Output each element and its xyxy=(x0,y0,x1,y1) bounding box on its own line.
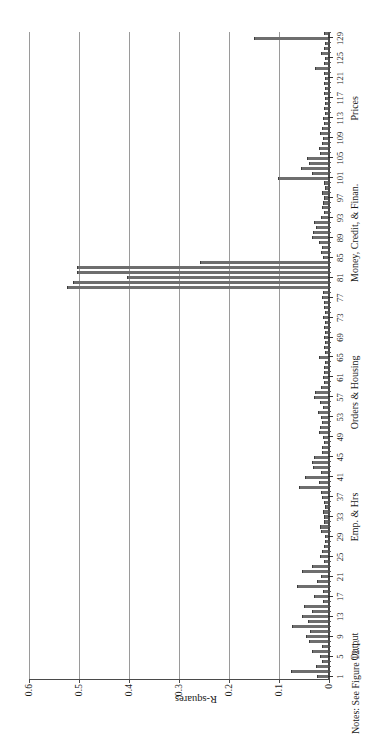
x-tick-mark xyxy=(328,401,331,402)
y-tick-mark xyxy=(79,679,80,683)
x-tick-mark xyxy=(328,211,331,212)
y-tick-mark xyxy=(129,679,130,683)
x-tick-mark xyxy=(328,501,331,502)
x-tick-label-29: 29 xyxy=(335,532,345,541)
x-tick-label-45: 45 xyxy=(335,452,345,461)
x-tick-mark xyxy=(328,660,331,661)
x-tick-mark xyxy=(328,206,331,207)
x-tick-mark xyxy=(328,451,331,452)
x-tick-mark xyxy=(328,102,331,103)
x-tick-mark xyxy=(328,197,333,198)
x-tick-mark xyxy=(328,471,331,472)
x-tick-mark xyxy=(328,182,331,183)
x-tick-mark xyxy=(328,42,331,43)
x-tick-mark xyxy=(328,620,331,621)
y-tick-label-0.5: 0.5 xyxy=(74,684,84,696)
x-tick-mark xyxy=(328,675,333,676)
x-tick-mark xyxy=(328,331,331,332)
x-tick-mark xyxy=(328,595,333,596)
x-tick-mark xyxy=(328,411,331,412)
x-tick-mark xyxy=(328,127,331,128)
x-tick-mark xyxy=(328,142,331,143)
x-tick-label-77: 77 xyxy=(335,293,345,302)
x-group-label: Orders & Housing xyxy=(349,355,360,429)
x-tick-label-113: 113 xyxy=(335,111,345,124)
x-tick-mark xyxy=(328,635,333,636)
x-group-label: Money, Credit, & Finan. xyxy=(349,183,360,281)
x-tick-mark xyxy=(328,670,331,671)
x-tick-mark xyxy=(328,361,331,362)
x-tick-mark xyxy=(328,32,331,33)
x-tick-label-93: 93 xyxy=(335,213,345,222)
x-tick-mark xyxy=(328,37,333,38)
x-tick-mark xyxy=(328,77,333,78)
x-tick-label-25: 25 xyxy=(335,552,345,561)
x-tick-mark xyxy=(328,62,331,63)
x-tick-label-65: 65 xyxy=(335,353,345,362)
x-tick-mark xyxy=(328,446,331,447)
x-tick-label-37: 37 xyxy=(335,492,345,501)
x-tick-mark xyxy=(328,605,331,606)
x-tick-mark xyxy=(328,162,331,163)
x-tick-mark xyxy=(328,92,331,93)
x-tick-mark xyxy=(328,386,331,387)
x-tick-mark xyxy=(328,396,333,397)
x-tick-mark xyxy=(328,157,333,158)
x-tick-mark xyxy=(328,570,331,571)
x-tick-mark xyxy=(328,226,331,227)
x-tick-mark xyxy=(328,147,331,148)
x-tick-mark xyxy=(328,246,331,247)
x-tick-mark xyxy=(328,416,333,417)
y-tick-mark xyxy=(279,679,280,683)
x-tick-mark xyxy=(328,655,333,656)
x-tick-mark xyxy=(328,306,331,307)
x-tick-mark xyxy=(328,486,331,487)
x-tick-mark xyxy=(328,615,333,616)
x-tick-mark xyxy=(328,192,331,193)
x-tick-label-5: 5 xyxy=(335,654,345,658)
x-tick-mark xyxy=(328,511,331,512)
x-tick-mark xyxy=(328,266,331,267)
x-tick-mark xyxy=(328,426,331,427)
x-group-label: Emp. & Hrs xyxy=(349,492,360,541)
x-tick-mark xyxy=(328,187,331,188)
x-tick-mark xyxy=(328,625,331,626)
y-tick-label-0: 0 xyxy=(324,684,334,689)
x-tick-mark xyxy=(328,540,331,541)
x-tick-mark xyxy=(328,630,331,631)
x-tick-mark xyxy=(328,431,331,432)
x-tick-mark xyxy=(328,366,331,367)
x-tick-mark xyxy=(328,391,331,392)
x-tick-mark xyxy=(328,555,333,556)
x-tick-mark xyxy=(328,336,333,337)
x-tick-label-97: 97 xyxy=(335,193,345,202)
x-tick-label-85: 85 xyxy=(335,253,345,262)
x-tick-label-13: 13 xyxy=(335,612,345,621)
x-tick-label-9: 9 xyxy=(335,634,345,638)
x-tick-mark xyxy=(328,57,333,58)
y-tick-mark xyxy=(329,679,330,683)
x-tick-mark xyxy=(328,346,331,347)
x-tick-mark xyxy=(328,406,331,407)
figure: R-squares 00.10.20.30.40.50.6 1591317212… xyxy=(20,18,372,734)
x-tick-mark xyxy=(328,117,333,118)
x-tick-label-129: 129 xyxy=(335,32,345,45)
x-tick-mark xyxy=(328,565,331,566)
x-tick-mark xyxy=(328,535,333,536)
x-tick-mark xyxy=(328,456,333,457)
x-tick-mark xyxy=(328,545,331,546)
x-tick-mark xyxy=(328,585,331,586)
x-tick-mark xyxy=(328,376,333,377)
x-tick-mark xyxy=(328,530,331,531)
x-tick-mark xyxy=(328,481,331,482)
x-tick-mark xyxy=(328,276,333,277)
x-tick-mark xyxy=(328,441,331,442)
x-group-label: Prices xyxy=(349,96,360,120)
x-tick-mark xyxy=(328,296,333,297)
x-tick-mark xyxy=(328,97,333,98)
x-tick-mark xyxy=(328,421,331,422)
x-tick-mark xyxy=(328,271,331,272)
x-tick-label-69: 69 xyxy=(335,333,345,342)
y-tick-label-0.4: 0.4 xyxy=(124,684,134,696)
x-tick-mark xyxy=(328,341,331,342)
